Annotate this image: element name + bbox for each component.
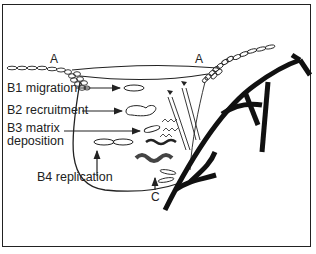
label-b1-migration: B1 migration xyxy=(7,82,77,95)
fibroblast xyxy=(144,125,161,134)
wound-surface xyxy=(72,65,218,70)
label-a-left: A xyxy=(50,53,58,66)
label-b3-deposition: deposition xyxy=(7,135,64,148)
label-b4-replication: B4 replication xyxy=(37,171,113,184)
label-b2-recruitment: B2 recruitment xyxy=(7,104,88,117)
recruited-cell xyxy=(126,105,156,115)
migrating-cell xyxy=(124,85,144,91)
label-a-right: A xyxy=(195,53,203,66)
replicating-cell-2 xyxy=(113,139,133,145)
blood-vessels xyxy=(165,55,310,210)
collagen-fibers xyxy=(160,119,178,137)
replicating-cell-1 xyxy=(94,139,114,145)
pericyte-cells xyxy=(158,169,176,184)
label-c: C xyxy=(151,191,160,204)
